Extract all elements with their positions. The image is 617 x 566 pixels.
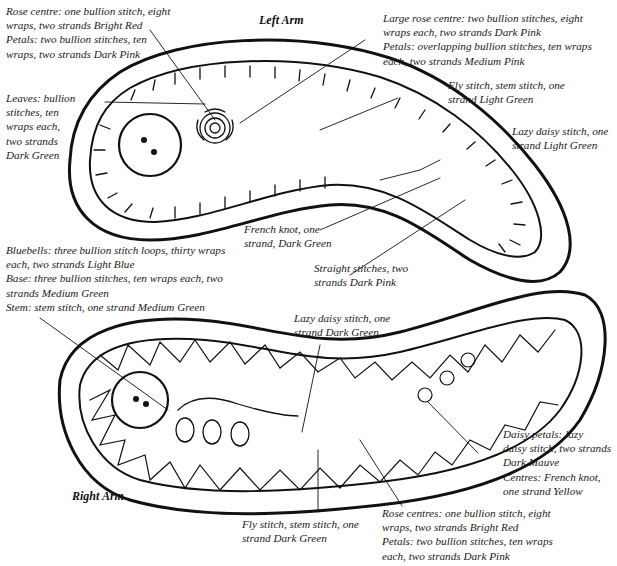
label-leaves: Leaves: bullion stitches, ten wraps each… [6,91,75,162]
left-arm-rose [197,109,233,143]
label-french-knot: French knot, one strand, Dark Green [244,222,332,250]
label-straight-stitches: Straight stitches, two strands Dark Pink [314,261,408,289]
right-arm-daisies [418,353,475,402]
label-lazy-daisy-right: Lazy daisy stitch, one strand Dark Green [294,311,390,339]
right-arm-button [112,372,168,428]
label-bluebells: Bluebells: three bullion stitch loops, t… [6,243,225,314]
label-fly-stitch-left: Fly stitch, stem stitch, one strand Ligh… [448,78,565,106]
left-arm-title: Left Arm [259,13,304,28]
label-fly-stitch-right: Fly stitch, stem stitch, one strand Dark… [242,517,359,545]
label-daisy-petals: Daisy petals: lazy daisy stitch, two str… [503,427,611,498]
label-lazy-daisy-left: Lazy daisy stitch, one strand Light Gree… [512,124,608,152]
label-rose-centres: Rose centres: one bullion stitch, eight … [382,506,553,563]
right-arm-bluebells [176,398,298,446]
left-arm-button [119,114,181,176]
label-large-rose: Large rose centre: two bullion stitches,… [383,11,592,68]
right-arm-title: Right Arm [72,489,124,504]
label-rose-centre: Rose centre: one bullion stitch, eight w… [6,4,170,61]
